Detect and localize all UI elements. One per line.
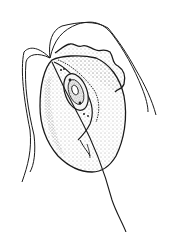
protozoan-drawing [0, 0, 169, 232]
illustration-canvas [0, 0, 169, 232]
cell-body [40, 56, 126, 172]
